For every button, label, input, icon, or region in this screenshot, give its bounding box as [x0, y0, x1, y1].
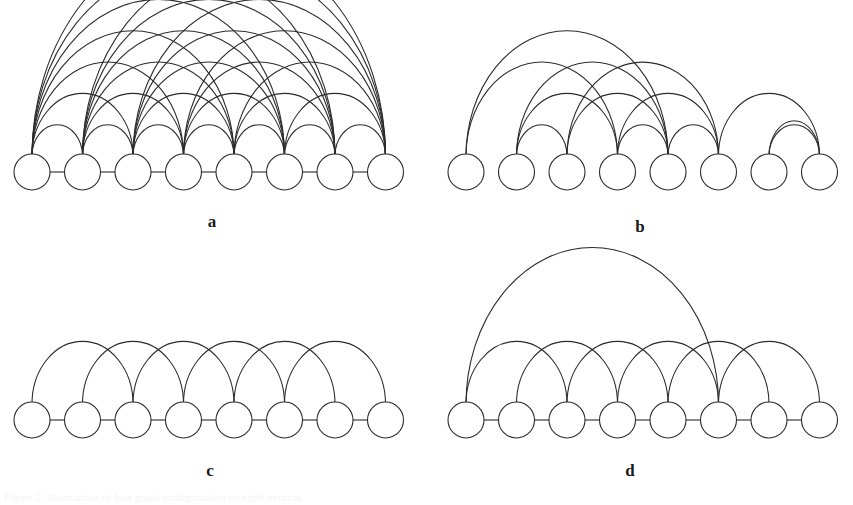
graph-node — [368, 154, 404, 190]
arc-edge — [618, 125, 669, 156]
graph-node — [650, 154, 686, 190]
graph-node — [216, 402, 252, 438]
panel-label-c: c — [198, 462, 222, 479]
graph-node — [115, 154, 151, 190]
graph-node — [65, 402, 101, 438]
panel-a — [14, 0, 404, 190]
arc-edge — [32, 0, 285, 156]
graph-node — [802, 154, 838, 190]
node-group — [448, 154, 838, 190]
graph-node — [751, 154, 787, 190]
arc-edge — [719, 93, 820, 156]
arc-edge — [466, 247, 719, 404]
figure-arc-diagrams: a b c d Figure 2. Illustrations of four … — [0, 0, 853, 505]
graph-canvas — [0, 0, 853, 505]
arc-edge — [769, 121, 820, 156]
panel-label-d: d — [618, 462, 642, 479]
graph-node — [317, 402, 353, 438]
figure-caption: Figure 2. Illustrations of four graph co… — [4, 491, 849, 504]
arc-edge — [83, 0, 386, 156]
arc-edge — [184, 125, 235, 156]
graph-node — [701, 154, 737, 190]
graph-node — [115, 402, 151, 438]
graph-node — [448, 154, 484, 190]
graph-node — [701, 402, 737, 438]
graph-node — [166, 402, 202, 438]
panel-label-a: a — [200, 213, 224, 230]
panel-d — [448, 247, 838, 438]
graph-node — [600, 154, 636, 190]
arc-edge — [32, 0, 335, 156]
panel-label-b: b — [628, 218, 652, 235]
arc-edge — [335, 125, 386, 156]
graph-node — [368, 402, 404, 438]
graph-node — [650, 402, 686, 438]
graph-node — [317, 154, 353, 190]
arc-group — [32, 341, 386, 404]
graph-node — [166, 154, 202, 190]
arc-edge — [133, 0, 386, 156]
arc-group — [466, 31, 820, 156]
panel-b — [448, 31, 838, 190]
arc-edge — [769, 125, 820, 156]
arc-edge — [133, 125, 184, 156]
graph-node — [549, 154, 585, 190]
graph-node — [267, 154, 303, 190]
graph-node — [499, 154, 535, 190]
arc-edge — [285, 125, 336, 156]
graph-node — [751, 402, 787, 438]
graph-node — [448, 402, 484, 438]
arc-edge — [234, 125, 285, 156]
arc-edge — [668, 125, 719, 156]
arc-edge — [32, 125, 83, 156]
arc-edge — [567, 62, 719, 156]
graph-node — [216, 154, 252, 190]
arc-edge — [83, 0, 336, 156]
graph-node — [14, 154, 50, 190]
arc-group — [466, 247, 820, 404]
arc-edge — [517, 125, 568, 156]
panel-c — [14, 341, 404, 438]
graph-node — [14, 402, 50, 438]
arc-group — [32, 0, 386, 156]
graph-node — [802, 402, 838, 438]
graph-node — [267, 402, 303, 438]
graph-node — [549, 402, 585, 438]
graph-node — [600, 402, 636, 438]
graph-node — [65, 154, 101, 190]
arc-edge — [83, 125, 134, 156]
graph-node — [499, 402, 535, 438]
